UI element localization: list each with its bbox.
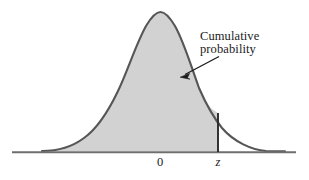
- cumulative-probability-shaded-area: [42, 12, 218, 151]
- axis-tick-label-z: z: [208, 155, 228, 170]
- annotation-label-line-2: probability: [200, 43, 256, 56]
- distribution-plot-svg: [0, 0, 309, 180]
- axis-tick-label-zero: 0: [150, 155, 170, 170]
- normal-distribution-figure: Cumulative probability 0 z: [0, 0, 309, 180]
